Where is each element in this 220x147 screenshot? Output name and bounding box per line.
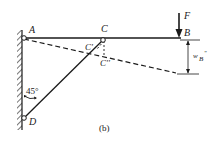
label-d: D — [28, 116, 37, 127]
label-f: F — [183, 10, 191, 21]
svg-text:": " — [204, 50, 207, 56]
label-b: B — [184, 27, 190, 38]
label-deflection: w B " — [193, 50, 207, 63]
label-c-double-prime: C'' — [100, 58, 111, 68]
svg-text:B: B — [199, 55, 204, 63]
label-angle: 45° — [26, 86, 39, 96]
structure-diagram: A C C' C'' F B D 45° w B " (b) — [0, 0, 220, 147]
label-c: C — [101, 23, 108, 34]
pin-a-icon — [22, 36, 27, 41]
label-c-prime: C' — [85, 42, 94, 52]
label-a: A — [28, 24, 36, 35]
pin-d-icon — [22, 116, 27, 121]
figure-caption: (b) — [99, 123, 110, 133]
force-arrow-icon — [176, 13, 183, 38]
svg-text:w: w — [193, 52, 198, 60]
fixed-wall — [17, 30, 22, 130]
pin-c-icon — [101, 38, 106, 43]
